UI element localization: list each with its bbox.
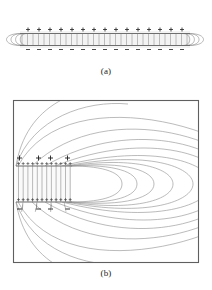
- capacitor-slab-b: [16, 166, 71, 202]
- positive-charges-a: [26, 28, 184, 32]
- panel-b: [0, 95, 212, 267]
- caption-panel-a: (a): [0, 66, 212, 76]
- figure-root: (a): [0, 0, 212, 290]
- panel-a-canvas: [0, 0, 212, 92]
- panel-a: [0, 0, 212, 92]
- panel-b-canvas: [0, 95, 212, 267]
- caption-panel-b: (b): [0, 268, 212, 278]
